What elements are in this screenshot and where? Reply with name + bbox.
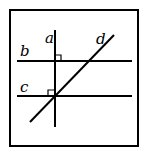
label-d: d [96,30,106,48]
label-c: c [20,78,29,96]
geometry-diagram: a b c d [0,0,148,150]
line-d [30,35,114,122]
frame-border [10,10,138,146]
label-a: a [45,29,54,47]
label-b: b [20,42,30,60]
